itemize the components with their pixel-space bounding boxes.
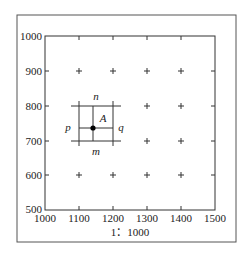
grid-crosses	[76, 68, 184, 178]
x-tick-1400: 1400	[170, 212, 193, 224]
label-a: A	[99, 112, 107, 124]
label-p: p	[64, 121, 71, 133]
y-tick-1000: 1000	[20, 30, 43, 42]
map-grid-diagram: 1000 900 800 700 600 500 1000 1100 1200 …	[0, 0, 249, 258]
point-a-marker	[90, 125, 95, 130]
x-tick-1300: 1300	[136, 212, 159, 224]
x-tick-1000: 1000	[34, 212, 57, 224]
label-m: m	[92, 145, 100, 157]
x-tick-1200: 1200	[102, 212, 125, 224]
scale-label: 1：1000	[111, 226, 150, 238]
label-q: q	[118, 121, 124, 133]
outer-frame	[17, 15, 236, 242]
x-tick-1500: 1500	[204, 212, 227, 224]
label-n: n	[93, 90, 99, 102]
y-tick-800: 800	[26, 100, 43, 112]
y-tick-900: 900	[26, 65, 43, 77]
grid-square	[71, 101, 121, 146]
x-tick-1100: 1100	[68, 212, 90, 224]
y-tick-600: 600	[26, 169, 43, 181]
y-tick-700: 700	[26, 135, 43, 147]
